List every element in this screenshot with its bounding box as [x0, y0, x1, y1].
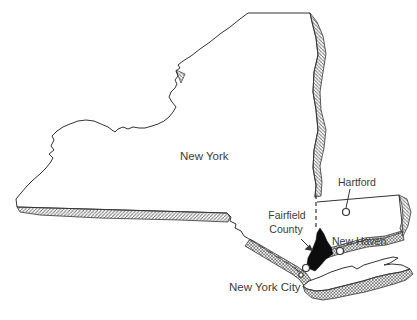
label-fairfield-county-line2: County: [269, 223, 303, 235]
label-hartford: Hartford: [338, 176, 376, 188]
nyc-marker-inner: [299, 273, 303, 277]
label-new-york: New York: [180, 150, 229, 162]
map-canvas: New York Hartford Fairfield County New H…: [0, 0, 417, 320]
new-haven-marker: [337, 248, 344, 255]
label-new-york-city: New York City: [229, 281, 301, 293]
nyc-marker-outer: [303, 265, 310, 272]
map-figure: New York Hartford Fairfield County New H…: [0, 0, 417, 320]
hartford-marker: [343, 209, 350, 216]
label-new-haven: New Haven: [332, 235, 386, 247]
label-fairfield-county-line1: Fairfield: [268, 209, 306, 221]
